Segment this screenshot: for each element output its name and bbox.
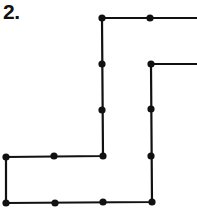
- grid-dot: [50, 152, 57, 159]
- grid-dot: [147, 60, 154, 67]
- grid-dot: [98, 14, 105, 21]
- grid-dot: [147, 105, 154, 112]
- dot-path-diagram: [0, 0, 197, 209]
- grid-dot: [148, 198, 155, 205]
- grid-dot: [99, 152, 106, 159]
- grid-dot: [98, 106, 105, 113]
- grid-dots: [2, 14, 155, 206]
- grid-dot: [2, 199, 9, 206]
- grid-dot: [98, 60, 105, 67]
- grid-dot: [146, 14, 153, 21]
- grid-dot: [99, 198, 106, 205]
- grid-dot: [2, 153, 9, 160]
- grid-dot: [51, 199, 58, 206]
- grid-dot: [147, 152, 154, 159]
